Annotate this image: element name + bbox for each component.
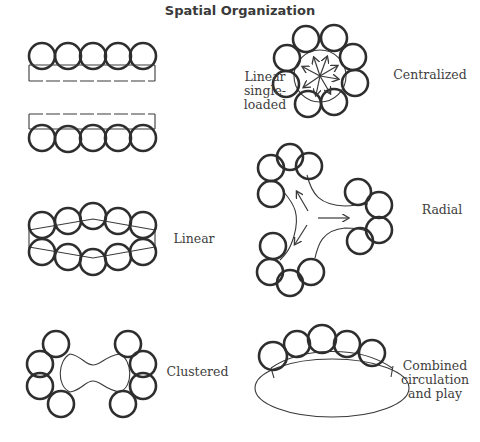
lower-room-row — [29, 239, 156, 275]
label-combined-circulation-play: Combined circulation and play — [395, 359, 475, 401]
clustered-diagram — [27, 331, 156, 417]
label-linear-single-loaded: Linear single- loaded — [230, 70, 300, 112]
lower-left-cluster — [257, 233, 324, 296]
connector-bottom — [70, 381, 120, 392]
label-linear: Linear — [164, 232, 224, 246]
radial-diagram — [257, 144, 392, 296]
corridor — [29, 219, 155, 258]
upper-left-cluster — [258, 144, 322, 207]
combined-circulation-play-diagram — [255, 325, 409, 417]
right-cluster — [345, 179, 392, 254]
upper-room-row — [29, 203, 156, 238]
linear-diagram — [29, 203, 156, 275]
label-radial: Radial — [412, 203, 472, 217]
linear-single-loaded-diagram — [29, 43, 156, 152]
connector-top — [70, 354, 120, 365]
right-cluster — [110, 331, 156, 417]
label-clustered: Clustered — [160, 365, 235, 379]
label-centralized: Centralized — [390, 68, 470, 82]
left-cluster — [27, 331, 74, 417]
